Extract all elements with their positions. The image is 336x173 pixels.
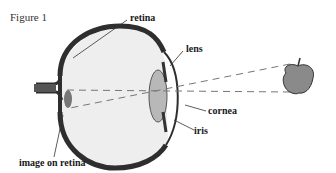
eye-diagram	[0, 0, 336, 173]
label-image-on-retina: image on retina	[19, 158, 85, 168]
label-retina: retina	[130, 13, 155, 23]
figure-title: Figure 1	[10, 12, 47, 23]
label-iris: iris	[194, 126, 208, 136]
retina-image	[64, 90, 72, 108]
label-lens: lens	[186, 44, 203, 54]
optic-nerve	[34, 76, 62, 100]
apple-icon	[283, 58, 313, 94]
label-cornea: cornea	[208, 106, 237, 116]
